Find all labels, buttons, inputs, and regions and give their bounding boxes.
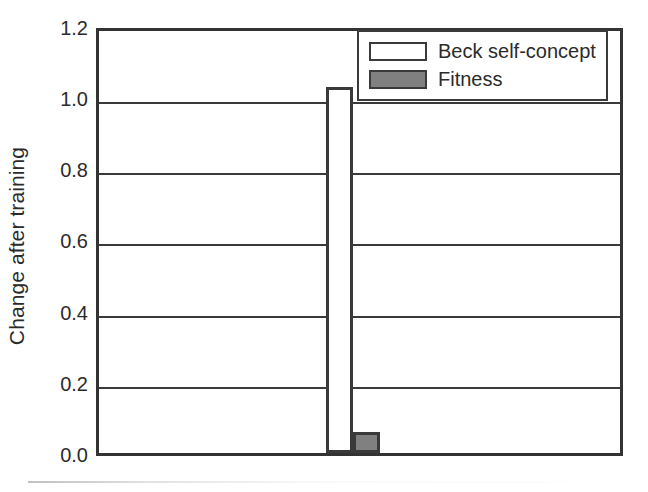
legend-label: Beck self-concept <box>438 41 596 61</box>
gridline-0.8 <box>99 173 620 175</box>
y-tick-label: 0.8 <box>30 159 88 182</box>
bar-beck-self-concept <box>326 87 353 453</box>
legend-item-fitness: Fitness <box>369 66 596 92</box>
y-axis-tick-labels: 1.2 1.0 0.8 0.6 0.4 0.2 0.0 <box>30 0 88 492</box>
y-tick-label: 1.2 <box>30 17 88 40</box>
y-tick-label: 0.6 <box>30 230 88 253</box>
y-axis-title: Change after training <box>0 0 34 492</box>
legend-item-beck-self-concept: Beck self-concept <box>369 38 596 64</box>
y-tick-label: 0.0 <box>30 444 88 467</box>
legend: Beck self-concept Fitness <box>357 30 608 101</box>
y-tick-label: 1.0 <box>30 88 88 111</box>
legend-swatch-icon <box>369 70 427 89</box>
gridline-1.0 <box>99 102 620 104</box>
gridline-0.2 <box>99 387 620 389</box>
scan-artifact-line <box>28 481 568 483</box>
legend-label: Fitness <box>438 69 502 89</box>
legend-swatch-icon <box>369 42 427 61</box>
figure-container: Change after training 1.2 1.0 0.8 0.6 0.… <box>0 0 648 492</box>
y-tick-label: 0.2 <box>30 373 88 396</box>
gridline-0.4 <box>99 316 620 318</box>
bar-fitness <box>353 432 380 453</box>
y-tick-label: 0.4 <box>30 302 88 325</box>
gridline-0.6 <box>99 244 620 246</box>
